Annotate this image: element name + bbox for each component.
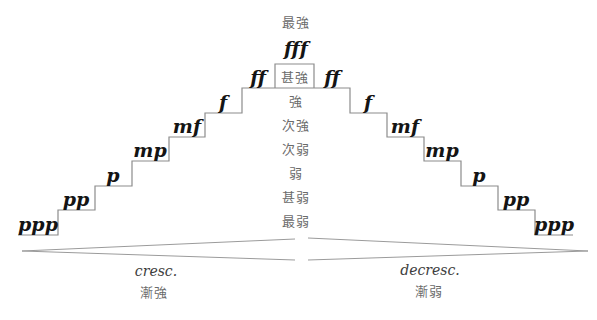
crescendo-zh-label: 漸強 <box>140 286 168 299</box>
dynamic-label-ppp-right: ppp <box>534 215 574 234</box>
level-label-shenruo: 甚弱 <box>282 191 310 204</box>
dynamics-diagram: 最強 fff 甚強 強 次強 次弱 弱 甚弱 最弱 ppp pp p mp mf… <box>0 0 597 320</box>
dynamic-label-pp-right: pp <box>503 190 530 209</box>
level-label-ruo: 弱 <box>289 167 303 180</box>
decrescendo-hairpin-top-line <box>308 238 588 251</box>
dynamic-label-ff-right: ff <box>324 68 340 87</box>
level-label-ciqiang: 次強 <box>282 119 310 132</box>
crescendo-hairpin-bottom-line <box>22 251 295 260</box>
dynamic-label-p-left: p <box>106 166 119 185</box>
level-label-zuiqiang-top: 最強 <box>282 16 310 29</box>
dynamic-label-mf-left: mf <box>173 117 201 136</box>
level-label-zuiruo: 最弱 <box>282 215 310 228</box>
dynamic-label-mp-left: mp <box>133 141 166 160</box>
decrescendo-term-label: decresc. <box>400 263 460 277</box>
dynamic-label-mf-right: mf <box>391 117 419 136</box>
level-label-qiang: 強 <box>289 95 303 108</box>
decrescendo-zh-label: 漸弱 <box>415 285 443 298</box>
level-label-shenqiang: 甚強 <box>281 71 309 84</box>
dynamic-label-ppp-left: ppp <box>18 215 58 234</box>
crescendo-term-label: cresc. <box>135 264 177 278</box>
dynamic-label-f-right: f <box>364 93 372 112</box>
dynamic-label-ff-left: ff <box>250 68 266 87</box>
dynamic-label-pp-left: pp <box>63 190 90 209</box>
crescendo-hairpin-top-line <box>22 239 295 251</box>
dynamic-label-p-right: p <box>472 166 485 185</box>
decrescendo-hairpin-bottom-line <box>308 251 588 260</box>
dynamic-label-fff-peak: fff <box>284 39 308 58</box>
dynamic-label-mp-right: mp <box>425 141 458 160</box>
level-label-ciruo: 次弱 <box>282 143 310 156</box>
dynamic-label-f-left: f <box>219 93 227 112</box>
